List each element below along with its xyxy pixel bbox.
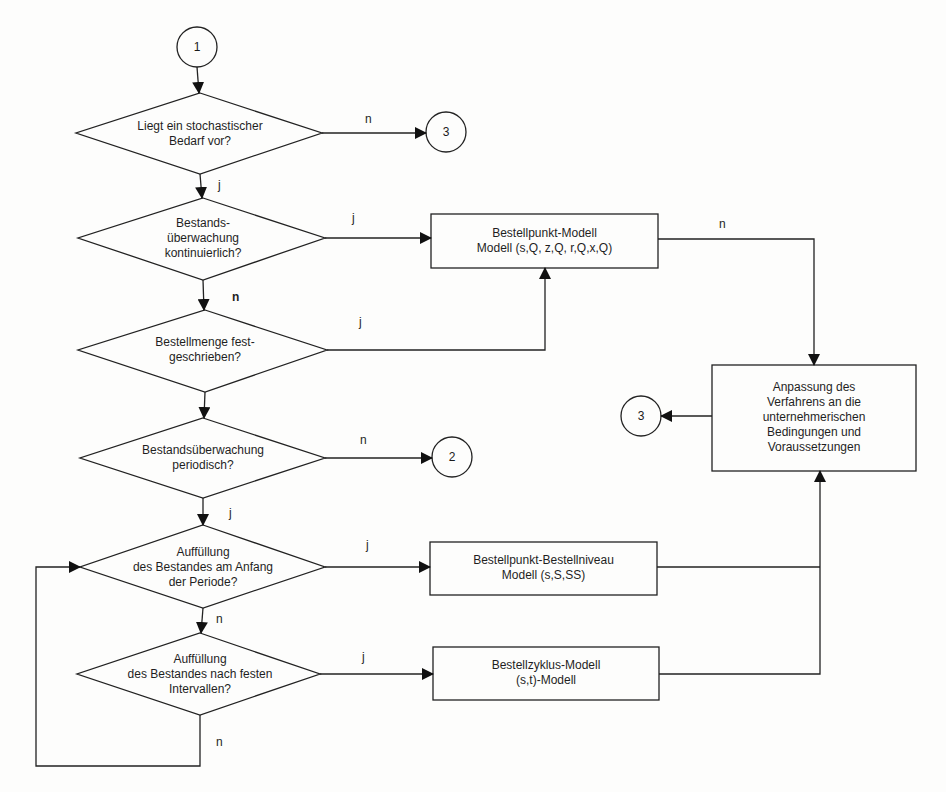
decision-d2: Bestands- überwachung kontinuierlich? <box>123 216 283 261</box>
edge-label-d5-no: n <box>216 612 223 626</box>
edge-label-d2-no: n <box>232 290 239 304</box>
decision-d3-line: geschrieben? <box>125 350 285 365</box>
decision-d6-line: Auffüllung <box>110 652 290 667</box>
connector-2-label: 2 <box>432 437 472 477</box>
decision-d1-line: Liegt ein stochastischer <box>120 119 280 134</box>
process-p4-line: Voraussetzungen <box>712 440 916 455</box>
decision-d2-line: Bestands- <box>123 216 283 231</box>
edge-label-d5-yes: j <box>366 538 369 552</box>
process-p4-line: Verfahrens an die <box>712 395 916 410</box>
process-p1-title: Bestellpunkt-Modell <box>431 226 658 241</box>
edge-label-d6-no: n <box>216 735 223 749</box>
connector-1-label: 1 <box>177 27 217 67</box>
edge-label-d2-yes: j <box>352 211 355 225</box>
decision-d6-line: Intervallen? <box>110 682 290 697</box>
process-p1-subtitle: Modell (s,Q, z,Q, r,Q,x,Q) <box>431 241 658 256</box>
process-p1: Bestellpunkt-Modell Modell (s,Q, z,Q, r,… <box>431 226 658 256</box>
process-p2-title: Bestellpunkt-Bestellniveau <box>430 553 657 568</box>
process-p4: Anpassung des Verfahrens an die unterneh… <box>712 380 916 455</box>
decision-d3-line: Bestellmenge fest- <box>125 335 285 350</box>
edge-label-d3-yes: j <box>359 315 362 329</box>
process-p2: Bestellpunkt-Bestellniveau Modell (s,S,S… <box>430 553 657 583</box>
connector-3-top-label: 3 <box>426 112 466 152</box>
decision-d4-line: Bestandsüberwachung <box>123 443 283 458</box>
decision-d5-line: der Periode? <box>113 575 293 590</box>
edge-label-d4-yes: j <box>229 506 232 520</box>
process-p4-line: Bedingungen und <box>712 425 916 440</box>
edge-label-p1-out: n <box>719 217 726 231</box>
decision-d6-line: des Bestandes nach festen <box>110 667 290 682</box>
decision-d5: Auffüllung des Bestandes am Anfang der P… <box>113 545 293 590</box>
edge-label-d6-yes: j <box>362 650 365 664</box>
connector-3-right-label: 3 <box>621 396 661 436</box>
edge-label-d1-no: n <box>365 112 372 126</box>
edge-label-d4-no: n <box>360 433 367 447</box>
edge-label-d1-yes: j <box>218 178 221 192</box>
decision-d1: Liegt ein stochastischer Bedarf vor? <box>120 119 280 149</box>
decision-d2-line: überwachung <box>123 231 283 246</box>
decision-d1-line: Bedarf vor? <box>120 134 280 149</box>
decision-d4-line: periodisch? <box>123 458 283 473</box>
process-p4-line: unternehmerischen <box>712 410 916 425</box>
decision-d6: Auffüllung des Bestandes nach festen Int… <box>110 652 290 697</box>
decision-d5-line: des Bestandes am Anfang <box>113 560 293 575</box>
process-p4-line: Anpassung des <box>712 380 916 395</box>
process-p2-subtitle: Modell (s,S,SS) <box>430 568 657 583</box>
decision-d3: Bestellmenge fest- geschrieben? <box>125 335 285 365</box>
decision-d2-line: kontinuierlich? <box>123 246 283 261</box>
decision-d4: Bestandsüberwachung periodisch? <box>123 443 283 473</box>
process-p3: Bestellzyklus-Modell (s,t)-Modell <box>433 658 659 688</box>
process-p3-title: Bestellzyklus-Modell <box>433 658 659 673</box>
process-p3-subtitle: (s,t)-Modell <box>433 673 659 688</box>
decision-d5-line: Auffüllung <box>113 545 293 560</box>
